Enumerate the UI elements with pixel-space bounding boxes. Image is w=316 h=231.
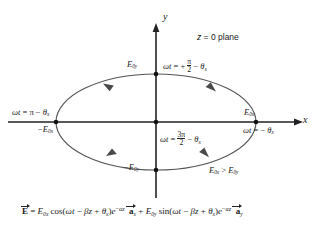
phase-annotation-right: ωt = − θx [243, 126, 274, 136]
phase-annotation-top: ωt = + π2 − θx [163, 58, 207, 74]
z-plane-note: z = 0 plane [197, 33, 239, 42]
direction-arrow-lower-right [199, 148, 209, 158]
figure-canvas: y x z = 0 plane E0y −E0y E0x −E0x ωt = +… [0, 0, 316, 231]
vertex-dot-negative-y [154, 168, 159, 173]
vertex-dot-positive-x [254, 120, 259, 125]
amplitude-inequality: E0x > E0y [209, 166, 238, 176]
vertex-dot-negative-x [54, 120, 59, 125]
amplitude-label-negative-y: −E0y [124, 163, 139, 173]
amplitude-label-negative-x: −E0x [38, 125, 53, 135]
vertex-dot-positive-y [154, 72, 159, 77]
direction-arrow-upper-right [206, 82, 216, 91]
amplitude-label-positive-x: E0x [244, 108, 254, 118]
field-equation: E = E0x cos(ωt − βz + θx)e−αz ax + E0y s… [22, 206, 243, 217]
amplitude-label-positive-y: E0y [127, 60, 137, 70]
y-axis-label: y [163, 12, 167, 22]
direction-arrow-upper-left [103, 84, 114, 92]
origin-dot [154, 120, 159, 125]
phase-annotation-left: ωt = π − θx [12, 108, 49, 118]
phase-annotation-bottom: ωt = 3π2 − θx [160, 131, 201, 147]
direction-arrow-lower-left [106, 149, 117, 156]
x-axis-label: x [303, 115, 307, 125]
